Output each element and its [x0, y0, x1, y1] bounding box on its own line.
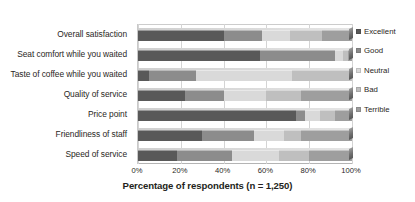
- legend-item[interactable]: Good: [356, 46, 383, 56]
- legend-item[interactable]: Bad: [356, 85, 378, 95]
- bar-segment[interactable]: [138, 110, 296, 121]
- bar-end-cap: [349, 87, 353, 100]
- bar-end-cap: [349, 67, 353, 80]
- legend-swatch-icon: [356, 68, 361, 73]
- bar-segment[interactable]: [149, 70, 196, 81]
- x-tick-label: 40%: [215, 166, 230, 176]
- bar-segment[interactable]: [224, 30, 263, 41]
- legend-swatch-icon: [356, 48, 361, 53]
- bar-segment[interactable]: [138, 130, 202, 141]
- bar-row[interactable]: [138, 50, 352, 61]
- category-axis-labels: Overall satisfactionSeat comfort while y…: [0, 24, 133, 164]
- plot-bottom-border: [138, 163, 352, 164]
- legend-swatch-icon: [356, 107, 361, 112]
- bar-segment[interactable]: [320, 110, 335, 121]
- legend-label: Good: [364, 46, 383, 55]
- bar-segment[interactable]: [138, 90, 185, 101]
- x-tick-label: 100%: [341, 166, 360, 176]
- bar-segment[interactable]: [301, 130, 352, 141]
- legend-item[interactable]: Excellent: [356, 26, 396, 36]
- x-axis-title: Percentage of respondents (n = 1,250): [0, 180, 415, 191]
- category-label: Quality of service: [64, 88, 127, 101]
- bar-end-cap: [349, 127, 353, 140]
- category-label: Taste of coffee while you waited: [11, 68, 128, 81]
- bar-segment[interactable]: [177, 150, 233, 161]
- bar-segment[interactable]: [185, 90, 224, 101]
- bar-segment[interactable]: [309, 150, 352, 161]
- bar-end-cap: [349, 107, 353, 120]
- bar-segment[interactable]: [301, 90, 352, 101]
- bar-segment[interactable]: [296, 110, 305, 121]
- bar-row[interactable]: [138, 150, 352, 161]
- bar-segment[interactable]: [202, 130, 253, 141]
- bar-segment[interactable]: [290, 30, 322, 41]
- plot-top-border: [138, 24, 352, 25]
- bar-segment[interactable]: [279, 150, 309, 161]
- x-tick-label: 60%: [258, 166, 273, 176]
- bar-segment[interactable]: [305, 110, 320, 121]
- legend-label: Bad: [364, 85, 378, 94]
- category-label: Overall satisfaction: [57, 28, 127, 41]
- bar-stack: [138, 110, 352, 121]
- bar-segment[interactable]: [196, 70, 292, 81]
- bar-stack: [138, 150, 352, 161]
- category-label: Seat comfort while you waited: [17, 48, 127, 61]
- bar-stack: [138, 70, 352, 81]
- bar-segment[interactable]: [138, 50, 260, 61]
- bar-row[interactable]: [138, 90, 352, 101]
- bar-row[interactable]: [138, 130, 352, 141]
- bar-end-cap: [349, 47, 353, 60]
- legend: ExcellentGoodNeutralBadTerrible: [356, 26, 414, 128]
- bar-stack: [138, 130, 352, 141]
- legend-item[interactable]: Neutral: [356, 65, 389, 75]
- bar-segment[interactable]: [335, 50, 344, 61]
- bar-end-cap: [349, 27, 353, 40]
- legend-label: Neutral: [364, 66, 389, 75]
- category-label: Friendliness of staff: [56, 128, 127, 141]
- legend-label: Excellent: [364, 27, 396, 36]
- plot-area: [137, 24, 352, 164]
- bar-segment[interactable]: [138, 150, 177, 161]
- stacked-bar-chart: Overall satisfactionSeat comfort while y…: [0, 0, 415, 202]
- bar-segment[interactable]: [322, 30, 352, 41]
- x-axis-ticks: 0%20%40%60%80%100%: [137, 166, 352, 178]
- bar-row[interactable]: [138, 110, 352, 121]
- bar-segment[interactable]: [292, 70, 352, 81]
- bar-segment[interactable]: [262, 30, 290, 41]
- bar-end-cap: [349, 147, 353, 160]
- bar-stack: [138, 50, 352, 61]
- bar-row[interactable]: [138, 70, 352, 81]
- bar-segment[interactable]: [224, 90, 267, 101]
- bar-segment[interactable]: [284, 130, 301, 141]
- bar-segment[interactable]: [266, 90, 300, 101]
- bar-segment[interactable]: [254, 130, 284, 141]
- x-tick-label: 20%: [172, 166, 187, 176]
- category-label: Speed of service: [65, 148, 127, 161]
- bar-stack: [138, 30, 352, 41]
- bar-stack: [138, 90, 352, 101]
- bar-segment[interactable]: [232, 150, 279, 161]
- x-tick-label: 80%: [301, 166, 316, 176]
- x-tick-label: 0%: [132, 166, 143, 176]
- category-label: Price point: [88, 108, 127, 121]
- legend-item[interactable]: Terrible: [356, 104, 390, 114]
- legend-swatch-icon: [356, 29, 361, 34]
- bar-segment[interactable]: [260, 50, 335, 61]
- bar-segment[interactable]: [138, 70, 149, 81]
- legend-swatch-icon: [356, 87, 361, 92]
- legend-label: Terrible: [364, 105, 390, 114]
- bar-segment[interactable]: [138, 30, 224, 41]
- bar-row[interactable]: [138, 30, 352, 41]
